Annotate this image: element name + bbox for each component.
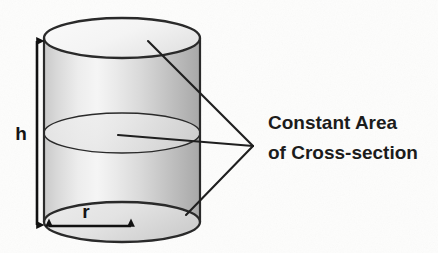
height-label: h bbox=[15, 123, 27, 144]
cylinder-diagram: h r Constant Area of Cross-section bbox=[0, 0, 438, 253]
radius-label: r bbox=[82, 201, 90, 222]
cylinder-shape bbox=[44, 18, 200, 242]
callout-line-1: Constant Area bbox=[268, 112, 398, 133]
callout-line-2: of Cross-section bbox=[268, 142, 418, 163]
diagram-canvas: h r Constant Area of Cross-section bbox=[0, 0, 438, 253]
